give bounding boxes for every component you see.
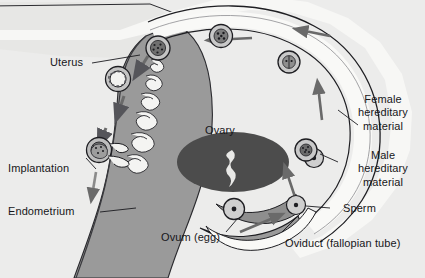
fertilization-diagram: Uterus Implantation Endometrium Ovary Ov… [0, 0, 425, 278]
blastocyst-early [146, 36, 170, 60]
cleavage-2cell [278, 51, 300, 73]
label-male-hereditary-line2: hereditary [346, 162, 420, 175]
label-female-hereditary-line1: Female [346, 93, 420, 106]
label-male-hereditary-material: Male hereditary material [346, 149, 420, 189]
label-female-hereditary-line3: material [346, 120, 420, 133]
label-sperm: Sperm [343, 202, 376, 215]
blastocyst-late [106, 67, 131, 92]
label-implantation: Implantation [8, 162, 69, 175]
morula [210, 25, 233, 48]
zygote-fertilized [295, 139, 317, 161]
label-male-hereditary-line3: material [346, 176, 420, 189]
label-female-hereditary-material: Female hereditary material [346, 93, 420, 133]
label-male-hereditary-line1: Male [346, 149, 420, 162]
sperm-lower-right [287, 196, 306, 215]
label-ovary: Ovary [205, 124, 235, 137]
label-uterus: Uterus [50, 56, 83, 69]
label-female-hereditary-line2: hereditary [346, 106, 420, 119]
label-oviduct: Oviduct (fallopian tube) [285, 237, 401, 250]
label-endometrium: Endometrium [8, 205, 75, 218]
label-ovum: Ovum (egg) [161, 231, 220, 244]
ovum-egg [224, 199, 245, 220]
ovary [177, 132, 289, 192]
